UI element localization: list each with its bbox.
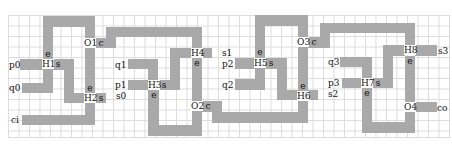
port-label-e: e [85,83,95,93]
wire-segment [235,58,255,69]
wire-segment [277,90,298,100]
wire-segment [415,45,437,56]
node-h7: H7 [361,78,373,88]
io-label-co: co [437,103,447,113]
wire-segment [235,79,265,90]
io-label-q3: q3 [328,57,340,67]
port-label-e: e [255,47,265,57]
node-o2: O2 [191,101,203,111]
port-label-e: e [298,81,308,91]
wire-segment [320,23,415,33]
io-label-p3: p3 [328,78,340,88]
port-label-c: c [96,38,106,48]
port-label-c: c [203,101,213,111]
port-label-e: e [149,90,159,100]
wire-segment [85,16,95,38]
circuit-diagram: esescseecesecsee H1H2O1H3H4O2H5H6O3H7H8O… [0,0,452,147]
node-h2: H2 [84,93,96,103]
io-label-s3: s3 [438,46,448,56]
wire-segment [22,83,53,93]
wire-segment [298,101,308,123]
node-h1: H1 [42,59,54,69]
node-h6: H6 [297,91,309,101]
io-label-s1: s1 [222,48,232,58]
io-label-s0: s0 [116,91,126,101]
io-label-q2: q2 [222,80,234,90]
io-label-s2: s2 [328,89,338,99]
port-label-c: c [309,37,319,47]
node-h4: H4 [191,48,203,58]
node-h3: H3 [148,80,160,90]
port-label-e: e [192,58,202,68]
wire-segment [415,102,437,112]
io-label-p2: p2 [222,59,234,69]
io-label-ci: ci [11,115,19,125]
node-o1: O1 [84,38,96,48]
wire-segment [148,59,158,80]
io-label-p1: p1 [115,80,127,90]
wire-segment [20,59,43,70]
port-label-e: e [405,56,415,66]
wire-segment [192,111,202,136]
wire-segment [362,57,372,78]
wire-segment [22,115,95,125]
wire-segment [342,78,362,88]
node-h5: H5 [254,58,266,68]
node-h8: H8 [404,45,416,55]
port-label-e: e [43,49,53,59]
wire-segment [192,27,202,48]
node-o4: O4 [404,102,416,112]
wire-segment [405,112,415,133]
wire-segment [128,80,148,90]
node-o3: O3 [297,37,309,47]
io-label-q1: q1 [115,60,127,70]
port-label-e: e [362,88,372,98]
wire-segment [106,27,202,37]
io-label-q0: q0 [9,83,21,93]
wire-segment [298,15,308,37]
wire-segment [212,112,308,123]
io-label-p0: p0 [9,60,21,70]
wire-segment [405,23,415,45]
wire-segment [64,93,85,103]
